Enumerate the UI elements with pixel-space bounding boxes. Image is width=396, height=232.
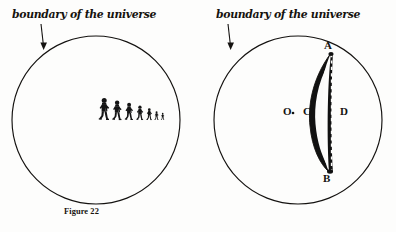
walker-3 <box>125 103 133 120</box>
figure-22-caption: Figure 22 <box>64 207 99 216</box>
figure-23-panel: boundary of the universe <box>198 0 396 232</box>
figure-22-panel: boundary of the universe <box>0 0 198 232</box>
point-label-d: D <box>340 106 348 117</box>
boundary-arrow-23 <box>227 24 234 50</box>
figure-page: boundary of the universe <box>0 0 396 232</box>
lens-endpoint-a <box>328 52 333 56</box>
shrinking-walkers-group <box>0 0 198 232</box>
walker-7 <box>161 113 164 120</box>
lens-crescent <box>309 52 333 174</box>
walker-6 <box>154 111 158 120</box>
walker-2 <box>112 100 121 120</box>
walker-4 <box>136 106 143 120</box>
point-label-a: A <box>324 40 332 51</box>
walker-row <box>99 98 165 120</box>
point-label-b: B <box>323 173 330 184</box>
figure-23-drawing <box>198 0 396 232</box>
point-label-o: O <box>283 106 292 117</box>
walker-1 <box>99 98 109 120</box>
point-label-c: C <box>303 106 311 117</box>
walker-5 <box>146 108 152 120</box>
center-dot <box>292 112 295 115</box>
universe-circle-23 <box>214 36 382 204</box>
